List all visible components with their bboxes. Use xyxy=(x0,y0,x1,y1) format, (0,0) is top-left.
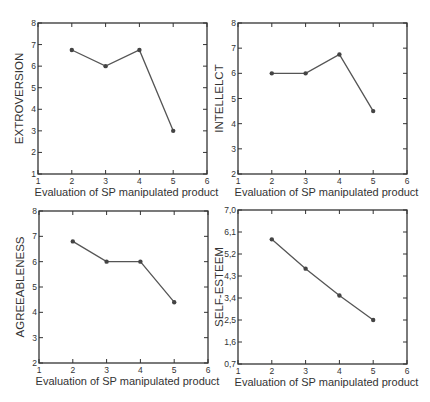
x-tick-label: 1 xyxy=(36,176,41,186)
y-tick-label: 8 xyxy=(231,18,236,28)
y-tick-label: 2 xyxy=(231,169,236,179)
x-axis-label: Evaluation of SP manipulated product xyxy=(235,376,419,388)
y-tick-label: 0,7 xyxy=(224,359,236,369)
x-axis-label: Evaluation of SP manipulated product xyxy=(235,186,419,198)
x-tick-label: 1 xyxy=(236,176,241,186)
y-tick-label: 8 xyxy=(32,206,37,216)
y-tick-label: 5 xyxy=(32,282,37,292)
y-tick-label: 2 xyxy=(31,147,36,157)
x-tick-label: 4 xyxy=(137,176,142,186)
data-line xyxy=(272,239,373,320)
x-tick-label: 6 xyxy=(206,365,211,375)
x-tick-label: 4 xyxy=(138,365,143,375)
x-tick-label: 4 xyxy=(337,366,342,376)
x-tick-label: 5 xyxy=(171,176,176,186)
y-tick-label: 7 xyxy=(31,40,36,50)
data-line xyxy=(72,50,173,131)
data-point xyxy=(270,237,274,241)
data-point xyxy=(371,109,375,113)
x-tick-label: 2 xyxy=(69,176,74,186)
x-tick-label: 2 xyxy=(269,366,274,376)
y-tick-label: 3 xyxy=(31,126,36,136)
y-tick-label: 8 xyxy=(31,18,36,28)
y-tick-label: 4 xyxy=(231,119,236,129)
data-point xyxy=(337,293,341,297)
y-tick-label: 4 xyxy=(32,307,37,317)
y-tick-label: 6,1 xyxy=(224,227,236,237)
chart-agreeableness: 1234562345678Evaluation of SP manipulate… xyxy=(14,206,219,387)
x-tick-label: 1 xyxy=(37,365,42,375)
plot-frame xyxy=(39,211,208,363)
data-line xyxy=(73,241,174,302)
x-axis-label: Evaluation of SP manipulated product xyxy=(35,186,219,198)
x-tick-label: 3 xyxy=(103,176,108,186)
y-tick-label: 4,3 xyxy=(224,271,236,281)
chart-self-esteem: 1234560,71,62,53,44,35,26,17,0Evaluation… xyxy=(213,205,418,388)
y-axis-label: EXTROVERSION xyxy=(13,53,25,144)
y-tick-label: 3 xyxy=(231,144,236,154)
y-tick-label: 4 xyxy=(31,104,36,114)
y-tick-label: 7 xyxy=(32,231,37,241)
data-point xyxy=(371,318,375,322)
y-tick-label: 3 xyxy=(32,333,37,343)
data-point xyxy=(104,259,108,263)
x-tick-label: 6 xyxy=(405,366,410,376)
y-axis-label: SELF-ESTEEM xyxy=(213,247,225,327)
y-tick-label: 3,4 xyxy=(224,293,236,303)
x-tick-label: 2 xyxy=(269,176,274,186)
chart-intellelct: 1234562345678Evaluation of SP manipulate… xyxy=(213,18,418,198)
x-tick-label: 2 xyxy=(70,365,75,375)
y-axis-label: AGREEABLENESS xyxy=(14,236,26,337)
data-point xyxy=(303,266,307,270)
x-tick-label: 4 xyxy=(337,176,342,186)
x-tick-label: 6 xyxy=(205,176,210,186)
x-tick-label: 5 xyxy=(371,366,376,376)
y-tick-label: 2 xyxy=(32,358,37,368)
y-tick-label: 6 xyxy=(231,68,236,78)
y-tick-label: 6 xyxy=(31,61,36,71)
x-tick-label: 3 xyxy=(303,176,308,186)
y-tick-label: 6 xyxy=(32,257,37,267)
plot-frame xyxy=(238,23,407,174)
x-axis-label: Evaluation of SP manipulated product xyxy=(36,375,220,387)
data-line xyxy=(272,54,373,111)
data-point xyxy=(270,71,274,75)
y-tick-label: 7,0 xyxy=(224,205,236,215)
x-tick-label: 3 xyxy=(104,365,109,375)
y-tick-label: 1,6 xyxy=(224,337,236,347)
data-point xyxy=(70,48,74,52)
x-tick-label: 1 xyxy=(236,366,241,376)
data-point xyxy=(171,129,175,133)
y-tick-label: 5 xyxy=(231,94,236,104)
y-tick-label: 7 xyxy=(231,43,236,53)
data-point xyxy=(137,48,141,52)
x-tick-label: 6 xyxy=(405,176,410,186)
plot-frame xyxy=(38,23,207,174)
y-tick-label: 5,2 xyxy=(224,249,236,259)
data-point xyxy=(337,52,341,56)
y-tick-label: 1 xyxy=(31,169,36,179)
plot-frame xyxy=(238,210,407,364)
x-tick-label: 5 xyxy=(371,176,376,186)
y-tick-label: 2,5 xyxy=(224,315,236,325)
chart-extroversion: 12345612345678Evaluation of SP manipulat… xyxy=(13,18,218,198)
y-axis-label: INTELLELCT xyxy=(213,64,225,132)
x-tick-label: 3 xyxy=(303,366,308,376)
data-point xyxy=(303,71,307,75)
data-point xyxy=(71,239,75,243)
chart-grid: 12345612345678Evaluation of SP manipulat… xyxy=(0,0,430,402)
data-point xyxy=(138,259,142,263)
y-tick-label: 5 xyxy=(31,83,36,93)
data-point xyxy=(172,300,176,304)
x-tick-label: 5 xyxy=(172,365,177,375)
data-point xyxy=(103,64,107,68)
